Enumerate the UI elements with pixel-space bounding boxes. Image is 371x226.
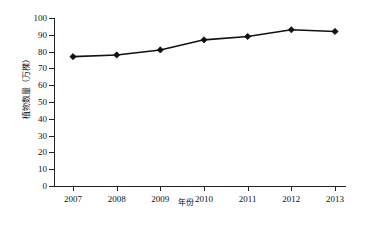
y-tick-label: 50	[38, 97, 47, 107]
y-tick-label: 10	[38, 164, 47, 174]
y-tick-label: 0	[43, 181, 48, 191]
y-tick-label: 100	[34, 13, 48, 23]
x-axis-title: 年份	[0, 196, 371, 207]
data-point-marker	[70, 54, 76, 60]
data-point-marker	[201, 37, 207, 43]
plot-area: 0102030405060708090100 20072008200920102…	[54, 18, 346, 187]
y-tick-label: 30	[38, 131, 47, 141]
line-chart: 植物数量（万棵） 0102030405060708090100 20072008…	[0, 0, 371, 226]
y-tick-label: 40	[38, 114, 47, 124]
data-point-marker	[245, 33, 251, 39]
data-point-marker	[157, 47, 163, 53]
y-axis-title: 植物数量（万棵）	[20, 2, 34, 172]
data-point-marker	[288, 27, 294, 33]
y-tick-label: 70	[38, 63, 47, 73]
y-tick-label: 60	[38, 80, 47, 90]
y-tick-label: 80	[38, 47, 47, 57]
y-tick-label: 20	[38, 147, 47, 157]
data-point-marker	[114, 52, 120, 58]
y-tick-label: 90	[38, 30, 47, 40]
data-series-plant-quantity	[54, 18, 346, 187]
data-point-marker	[332, 28, 338, 34]
